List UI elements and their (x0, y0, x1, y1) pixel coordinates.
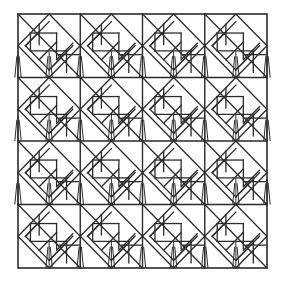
quilt-diagram (0, 0, 281, 287)
figure-canvas: Quilt Block Pattern Line-art diagram of … (0, 0, 281, 287)
